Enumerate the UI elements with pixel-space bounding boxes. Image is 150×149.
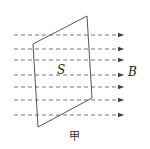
field-label: B: [128, 66, 137, 78]
figure-caption: 甲: [69, 131, 80, 142]
surface-label: S: [57, 64, 65, 76]
diagram-canvas: S B 甲: [0, 0, 150, 149]
field-lines: [14, 35, 123, 115]
